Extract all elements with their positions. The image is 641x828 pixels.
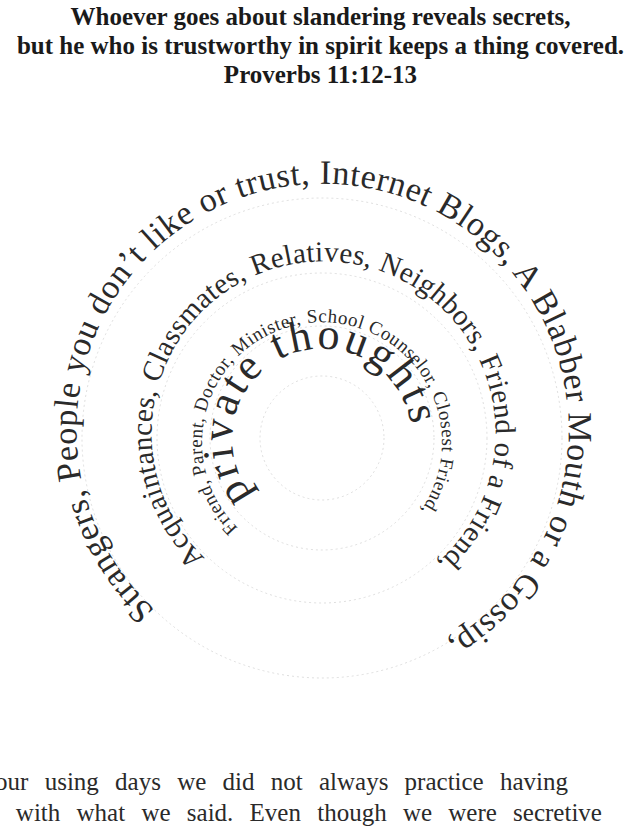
body-line-2: care with what we said. Even though we w… [0,797,641,828]
body-line-1: In our using days we did not always prac… [0,766,641,797]
scripture-line-2: but he who is trustworthy in spirit keep… [0,31,641,60]
scripture-reference: Proverbs 11:12-13 [0,60,641,89]
body-paragraph: In our using days we did not always prac… [0,766,641,828]
trust-circles-spiral: private thoughts Friend, Parent, Doctor,… [0,120,641,760]
scripture-line-1: Whoever goes about slandering reveals se… [0,2,641,31]
spiral-ring-3: Acquaintances, Classmates, Relatives, Ne… [125,235,521,582]
scripture-header: Whoever goes about slandering reveals se… [0,2,641,89]
